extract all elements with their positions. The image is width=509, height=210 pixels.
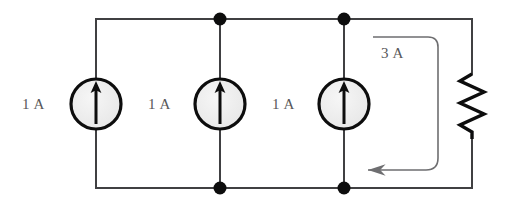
current-source-2 [195, 79, 245, 129]
current-source-2-label: 1 A [148, 96, 171, 112]
current-source-3-label: 1 A [272, 96, 295, 112]
current-source-1 [71, 79, 121, 129]
node-dot-bottom-third [338, 182, 351, 195]
current-source-1-label: 1 A [22, 96, 45, 112]
node-dot-top-middle [214, 13, 227, 26]
circuit-schematic-canvas: 1 A 1 A 1 A 3 A [0, 0, 509, 210]
node-dot-top-third [338, 13, 351, 26]
current-source-3 [319, 79, 369, 129]
circuit-diagram: 1 A 1 A 1 A 3 A [0, 0, 509, 210]
node-dot-bottom-middle [214, 182, 227, 195]
total-current-label: 3 A [381, 45, 404, 61]
resistor-zigzag-icon [460, 74, 484, 139]
resistor [460, 74, 484, 139]
